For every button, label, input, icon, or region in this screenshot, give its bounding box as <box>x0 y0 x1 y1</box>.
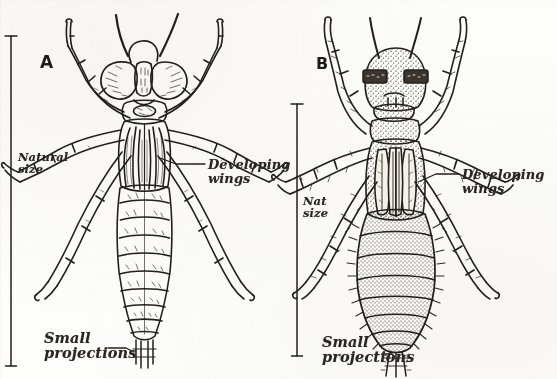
small-projections-label-b: Small projections <box>322 334 414 364</box>
scale-bar-a <box>5 36 17 366</box>
developing-wings-label-b: Developing wings <box>462 168 545 195</box>
leader-a-developing-wings <box>160 158 205 164</box>
figure-a-caudal-appendages <box>133 340 156 368</box>
developing-wings-label-a: Developing wings <box>208 158 291 185</box>
natural-size-label: Natural size <box>18 152 68 176</box>
small-projections-label-a: Small projections <box>44 330 136 360</box>
nat-size-label: Nat size <box>303 196 328 220</box>
scale-bar-b <box>291 104 303 356</box>
figure-letter-a: A <box>40 52 53 72</box>
figure-plate: A B Natural size Developing wings Small … <box>0 0 557 379</box>
figure-letter-b: B <box>316 54 328 73</box>
